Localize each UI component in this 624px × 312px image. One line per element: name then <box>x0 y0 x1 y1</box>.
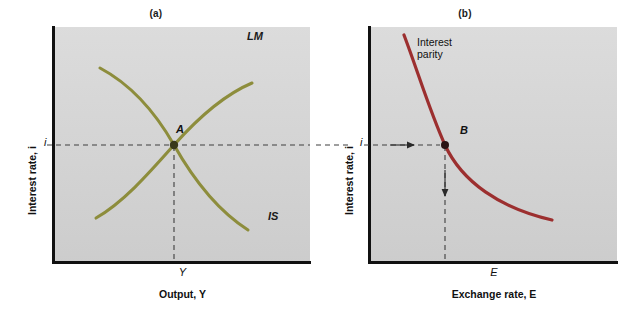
interest-parity-curve <box>404 35 552 220</box>
panel-a-x-tick-label: Y <box>55 266 310 278</box>
panel-b-x-tick-label: E <box>371 266 617 278</box>
panel-b-y-tick-label: i <box>360 136 362 148</box>
interest-parity-curve-label: Interest parity <box>417 36 452 60</box>
equilibrium-point-a <box>170 141 178 149</box>
panel-a-y-axis-title: Interest rate, i <box>26 146 38 215</box>
figure-container: (a) (b) <box>0 0 624 312</box>
panel-a-x-axis-title: Output, Y <box>55 288 310 300</box>
lm-curve-label: LM <box>247 30 263 42</box>
equilibrium-point-b-label: B <box>460 124 468 136</box>
panel-a-y-tick-label: i <box>44 136 46 148</box>
equilibrium-point-b <box>441 141 449 149</box>
equilibrium-point-a-label: A <box>176 123 184 135</box>
is-curve-label: IS <box>268 210 278 222</box>
panel-b-x-axis-title: Exchange rate, E <box>371 288 617 300</box>
panel-b-y-axis-title: Interest rate, i <box>343 146 355 215</box>
